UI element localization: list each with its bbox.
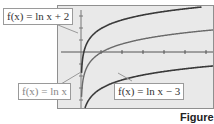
label-ln-x: f(x) = ln x xyxy=(18,83,71,100)
label-ln-x-minus-3: f(x) = ln x − 3 xyxy=(114,83,184,100)
figure-caption: Figure 4 xyxy=(180,111,214,123)
label-ln-x-plus-2: f(x) = ln x + 2 xyxy=(3,8,73,25)
